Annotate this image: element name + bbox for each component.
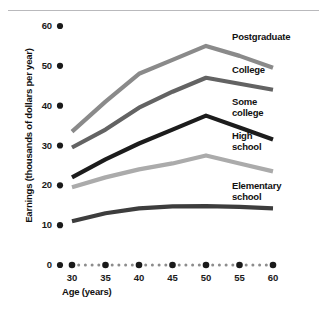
x-axis-major-dot <box>136 262 143 269</box>
x-axis-minor-dot <box>117 264 120 267</box>
x-axis-tick-label: 35 <box>95 272 117 283</box>
x-axis-minor-dot <box>151 264 154 267</box>
x-axis-minor-dot <box>131 264 134 267</box>
x-axis-minor-dot <box>97 264 100 267</box>
x-axis-major-dot <box>169 262 176 269</box>
x-axis-title: Age (years) <box>62 286 112 297</box>
x-axis-minor-dot <box>198 264 201 267</box>
x-axis-minor-dot <box>211 264 214 267</box>
series-label: Postgraduate <box>232 32 290 43</box>
x-axis-tick-label: 45 <box>162 272 184 283</box>
x-axis-dotted-line <box>69 262 277 269</box>
y-axis-dot <box>57 103 63 109</box>
y-axis-tick-label: 0 <box>30 259 52 270</box>
x-axis-major-dot <box>236 262 243 269</box>
y-axis-dot <box>57 182 63 188</box>
earnings-by-education-line-chart: 0102030405060 30354045505560 Postgraduat… <box>0 0 327 309</box>
series-label: Elementary school <box>232 181 281 202</box>
y-axis-tick-label: 60 <box>30 20 52 31</box>
x-axis-tick-label: 30 <box>61 272 83 283</box>
x-axis-minor-dot <box>231 264 234 267</box>
x-axis-tick-label: 40 <box>128 272 150 283</box>
series-label: High school <box>232 131 261 152</box>
x-axis-minor-dot <box>164 264 167 267</box>
x-axis-minor-dot <box>265 264 268 267</box>
y-axis-dot <box>57 262 63 268</box>
x-axis-major-dot <box>270 262 277 269</box>
x-axis-major-dot <box>102 262 109 269</box>
series-line <box>72 46 273 132</box>
x-axis-major-dot <box>69 262 76 269</box>
series-line <box>72 206 273 221</box>
x-axis-minor-dot <box>251 264 254 267</box>
series-label: College <box>232 65 265 76</box>
y-axis-dot-markers <box>57 23 63 268</box>
x-axis-minor-dot <box>111 264 114 267</box>
x-axis-tick-label: 55 <box>229 272 251 283</box>
x-axis-minor-dot <box>77 264 80 267</box>
x-axis-major-dot <box>203 262 210 269</box>
x-axis-tick-label: 60 <box>262 272 284 283</box>
series-label: Some college <box>232 97 263 118</box>
x-axis-minor-dot <box>218 264 221 267</box>
x-axis-minor-dot <box>124 264 127 267</box>
x-axis-minor-dot <box>84 264 87 267</box>
y-axis-dot <box>57 142 63 148</box>
y-axis-dot <box>57 63 63 69</box>
x-axis-minor-dot <box>178 264 181 267</box>
x-axis-minor-dot <box>191 264 194 267</box>
x-axis-minor-dot <box>91 264 94 267</box>
x-axis-tick-label: 50 <box>195 272 217 283</box>
x-axis-minor-dot <box>225 264 228 267</box>
x-axis-minor-dot <box>158 264 161 267</box>
x-axis-minor-dot <box>184 264 187 267</box>
x-axis-minor-dot <box>144 264 147 267</box>
y-axis-title: Earnings (thousands of dollars per year) <box>23 46 34 226</box>
x-axis-minor-dot <box>245 264 248 267</box>
x-axis-minor-dot <box>258 264 261 267</box>
y-axis-dot <box>57 23 63 29</box>
y-axis-dot <box>57 222 63 228</box>
